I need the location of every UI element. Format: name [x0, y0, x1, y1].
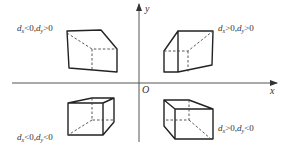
label-top-left: dx<0,dy>0	[17, 23, 53, 34]
cube-quadrant-diagram: x y O dx<0,dy>0 dx>0,dy>0 dx<0,dy<0 dx>0…	[0, 0, 290, 153]
cube-bottom-right	[164, 100, 213, 139]
label-bottom-right: dx>0,dy<0	[218, 123, 254, 134]
cube-top-right	[164, 31, 213, 72]
cube-top-left	[67, 30, 117, 72]
origin-label: O	[142, 84, 149, 95]
y-axis-label: y	[144, 3, 150, 14]
cube-bottom-left	[68, 98, 114, 135]
label-top-right: dx>0,dy>0	[218, 23, 254, 34]
label-bottom-left: dx<0,dy<0	[17, 132, 53, 143]
x-axis-label: x	[269, 85, 275, 96]
